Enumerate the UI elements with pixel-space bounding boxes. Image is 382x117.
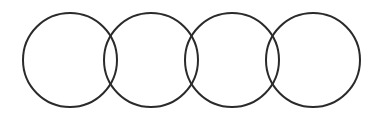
circle-3 <box>185 13 279 107</box>
chain-of-circles-diagram <box>0 0 382 117</box>
circle-2 <box>104 13 198 107</box>
circle-4 <box>266 13 360 107</box>
circle-1 <box>23 13 117 107</box>
